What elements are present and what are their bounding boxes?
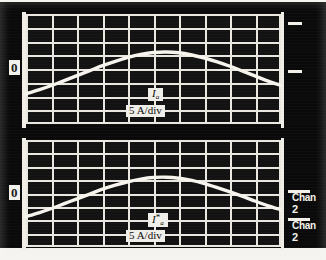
oscilloscope-photograph: 0 Ia 5 A/div 0 I*a 5 A/div Chan 2 Chan 2: [0, 0, 326, 260]
bottom-signal-label: I*a: [148, 213, 168, 227]
bottom-right-axis: [281, 138, 284, 250]
sidebar-channel-number-1: 2: [292, 204, 316, 214]
sidebar-channel-number-2: 2: [292, 232, 316, 242]
sidebar-channel-label-2: Chan: [292, 220, 316, 231]
sidebar-channel-label-1: Chan: [292, 192, 316, 203]
bottom-scale-label: 5 A/div: [126, 230, 165, 242]
sidebar-channel-readout-2: Chan 2: [292, 221, 316, 242]
sidebar-channel-readout-1: Chan 2: [292, 193, 316, 214]
bottom-signal-subscript: a: [160, 219, 164, 227]
